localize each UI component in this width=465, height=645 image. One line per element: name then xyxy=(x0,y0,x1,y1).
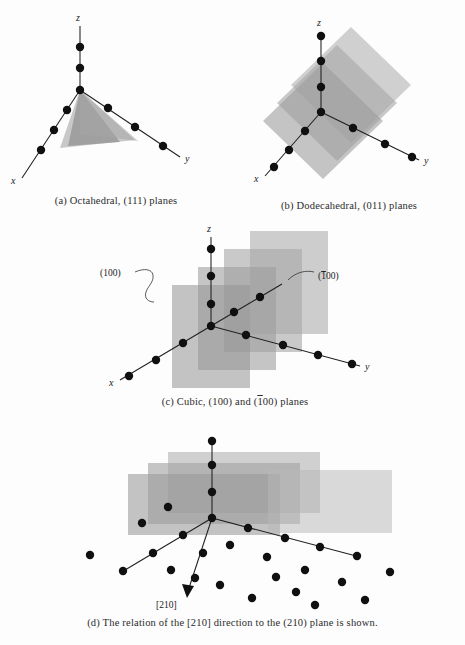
atom xyxy=(76,86,84,94)
atom-group-lattice-plane xyxy=(86,541,394,609)
plane-210-front xyxy=(128,474,280,535)
axis-label-z: z xyxy=(206,223,211,234)
atom xyxy=(37,146,45,154)
atom xyxy=(50,126,58,134)
atom xyxy=(138,519,146,527)
atom xyxy=(317,57,325,65)
atom xyxy=(301,566,309,574)
panel-c-canvas: z y x (100) xyxy=(60,222,410,397)
atom xyxy=(159,142,167,150)
plane-group-210 xyxy=(128,452,392,535)
atom xyxy=(125,372,133,380)
panel-cubic-100: z y x (100) xyxy=(60,222,410,397)
panel-d-canvas: [210] xyxy=(20,425,445,615)
atom xyxy=(119,567,127,575)
label-1bar00-suffix: 00) xyxy=(326,271,339,282)
atom xyxy=(281,534,289,542)
axis-label-y: y xyxy=(364,361,370,372)
caption-c-part1: (c) Cubic, (100) and ( xyxy=(162,396,258,407)
atom xyxy=(248,594,256,602)
atom xyxy=(314,351,322,359)
axis-label-x: x xyxy=(108,377,114,388)
atom xyxy=(317,32,325,40)
atom xyxy=(131,123,139,131)
atom xyxy=(207,272,215,280)
atom xyxy=(279,341,287,349)
axis-label-z: z xyxy=(316,17,321,28)
panel-b-canvas: z y x xyxy=(233,0,465,200)
axis-label-x: x xyxy=(253,173,259,184)
atom xyxy=(244,524,252,532)
atom xyxy=(207,322,215,330)
atom xyxy=(208,488,216,496)
axis-label-y: y xyxy=(184,153,190,164)
plane-group-100 xyxy=(172,231,328,388)
axis-label-x: x xyxy=(10,175,16,186)
atom xyxy=(208,461,216,469)
atom xyxy=(207,300,215,308)
direction-label-210: [210] xyxy=(156,600,177,610)
panel-octahedral-111: z y x xyxy=(0,0,232,195)
atom xyxy=(270,163,278,171)
plane-210-right xyxy=(268,470,392,533)
atom xyxy=(317,108,325,116)
atom xyxy=(179,339,187,347)
atom xyxy=(353,552,361,560)
atom xyxy=(311,601,319,609)
plane-group-111 xyxy=(60,90,138,148)
atom xyxy=(349,124,357,132)
caption-panel-c: (c) Cubic, (100) and (100) planes xyxy=(60,396,410,407)
atom xyxy=(226,541,234,549)
atom xyxy=(76,43,84,51)
atom xyxy=(317,83,325,91)
atom xyxy=(242,331,250,339)
atom xyxy=(408,153,416,161)
atom xyxy=(272,573,280,581)
label-100-leader xyxy=(135,270,154,302)
atom xyxy=(381,140,389,148)
atom xyxy=(301,127,309,135)
panel-a-canvas: z y x xyxy=(0,0,232,195)
atom xyxy=(167,566,175,574)
atom xyxy=(199,549,207,557)
atom xyxy=(179,531,187,539)
atom xyxy=(316,543,324,551)
annotation-100: (100) xyxy=(100,268,154,302)
atom xyxy=(208,514,216,522)
atom xyxy=(285,146,293,154)
plane-group-011 xyxy=(263,27,411,179)
atom xyxy=(152,356,160,364)
atom xyxy=(191,574,199,582)
atom xyxy=(104,104,112,112)
atom xyxy=(230,308,238,316)
atom xyxy=(164,503,172,511)
label-100-text: (100) xyxy=(100,268,121,279)
figure-page: z y x (a) Octahedral, (111) planes xyxy=(0,0,465,645)
atom xyxy=(63,106,71,114)
atom xyxy=(76,64,84,72)
label-1bar00-text: (100) xyxy=(318,271,339,282)
atom xyxy=(361,596,369,604)
panel-dodecahedral-011: z y x xyxy=(233,0,465,200)
atom xyxy=(208,437,216,445)
atom xyxy=(86,551,94,559)
atom xyxy=(263,553,271,561)
caption-panel-b: (b) Dodecahedral, (011) planes xyxy=(233,200,465,211)
caption-panel-a: (a) Octahedral, (111) planes xyxy=(0,195,232,206)
panel-direction-210: [210] xyxy=(20,425,445,615)
atom xyxy=(216,581,224,589)
atom xyxy=(338,578,346,586)
atom xyxy=(256,293,264,301)
atom xyxy=(149,549,157,557)
caption-panel-d: (d) The relation of the [210] direction … xyxy=(20,617,445,628)
arrowhead-210 xyxy=(182,584,194,598)
atom xyxy=(207,245,215,253)
atom xyxy=(386,568,394,576)
atom xyxy=(292,588,300,596)
plane-111-wedge xyxy=(80,90,138,141)
atom xyxy=(348,360,356,368)
caption-c-part3: 00) planes xyxy=(263,396,308,407)
axis-label-y: y xyxy=(423,155,429,166)
axis-label-z: z xyxy=(75,12,80,23)
